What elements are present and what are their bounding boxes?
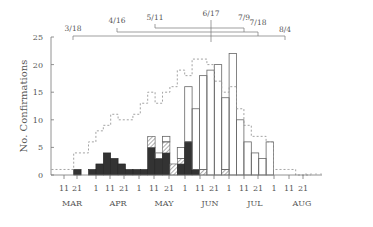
x-tick-label: 1 — [226, 184, 231, 193]
x-tick-label: 11 — [195, 184, 205, 193]
bar-open — [251, 153, 258, 175]
chart-container: 051015202511211112111121111211112111121M… — [0, 0, 373, 227]
bar-open — [200, 76, 207, 170]
x-tick-label: 21 — [209, 184, 219, 193]
bar-black — [185, 142, 192, 175]
x-tick-label: 1 — [182, 184, 187, 193]
bar-open — [244, 142, 251, 175]
x-tick-label: 11 — [284, 184, 294, 193]
bar-hatched — [177, 158, 184, 164]
bar-open — [192, 109, 199, 170]
x-tick-label: 21 — [72, 184, 82, 193]
bar-hatched — [170, 164, 177, 175]
bar-black — [74, 169, 81, 175]
month-label: MAR — [62, 199, 83, 208]
date-annotation-label: 7/18 — [250, 18, 267, 27]
bar-black — [111, 158, 118, 175]
y-tick-label: 25 — [33, 33, 43, 42]
date-annotation-label: 4/16 — [109, 16, 126, 25]
bar-open — [229, 54, 236, 175]
bar-open — [177, 147, 184, 158]
date-annotations: 3/184/165/116/177/97/188/4 — [65, 9, 292, 42]
x-tick-label: 11 — [59, 184, 69, 193]
bar-open — [163, 136, 170, 142]
x-tick-label: 11 — [239, 184, 249, 193]
bar-black — [140, 169, 147, 175]
y-tick-label: 10 — [33, 116, 43, 125]
axes-layer: 051015202511211112111121111211112111121M… — [33, 33, 322, 208]
bar-hatched — [148, 136, 155, 147]
x-tick-label: 11 — [149, 184, 159, 193]
bar-black — [89, 169, 96, 175]
histogram-chart: 051015202511211112111121111211112111121M… — [0, 0, 373, 227]
y-tick-label: 5 — [38, 143, 43, 152]
bar-hatched — [200, 169, 207, 175]
y-tick-label: 20 — [33, 61, 43, 70]
bar-open — [185, 87, 192, 142]
month-label: APR — [108, 199, 127, 208]
x-tick-label: 1 — [136, 184, 141, 193]
date-annotation-label: 6/17 — [203, 9, 220, 18]
bar-black — [163, 153, 170, 175]
month-label: JUN — [201, 199, 219, 208]
bar-black — [126, 169, 133, 175]
month-label: MAY — [155, 199, 175, 208]
bar-black — [155, 158, 162, 175]
bar-open — [222, 98, 229, 170]
dashed-outline-layer — [52, 59, 311, 175]
bar-open — [237, 120, 244, 175]
month-label: JUL — [246, 199, 263, 208]
y-axis-label: No. Confirmations — [18, 60, 29, 153]
dashed-step-line — [52, 59, 311, 175]
x-tick-label: 1 — [93, 184, 98, 193]
bar-black — [148, 147, 155, 175]
date-annotation-label: 8/4 — [279, 25, 291, 34]
bar-open — [259, 158, 266, 175]
bar-black — [192, 169, 199, 175]
x-tick-label: 21 — [298, 184, 308, 193]
date-annotation-label: 3/18 — [65, 24, 82, 33]
bar-open — [266, 142, 273, 175]
bar-black — [133, 169, 140, 175]
x-tick-label: 1 — [271, 184, 276, 193]
bar-black — [96, 164, 103, 175]
date-annotation-label: 5/11 — [147, 13, 164, 22]
x-tick-label: 11 — [105, 184, 115, 193]
y-tick-label: 0 — [38, 171, 43, 180]
bar-open — [207, 70, 214, 175]
x-tick-label: 21 — [119, 184, 129, 193]
bar-hatched — [163, 142, 170, 153]
bar-open — [155, 153, 162, 159]
bar-hatched — [222, 169, 229, 175]
date-annotation-label: 7/9 — [238, 13, 250, 22]
x-tick-label: 21 — [164, 184, 174, 193]
bar-black — [177, 164, 184, 175]
bar-black — [118, 164, 125, 175]
bar-black — [103, 153, 110, 175]
x-tick-label: 21 — [253, 184, 263, 193]
y-tick-label: 15 — [33, 88, 43, 97]
month-label: AUG — [292, 199, 312, 208]
